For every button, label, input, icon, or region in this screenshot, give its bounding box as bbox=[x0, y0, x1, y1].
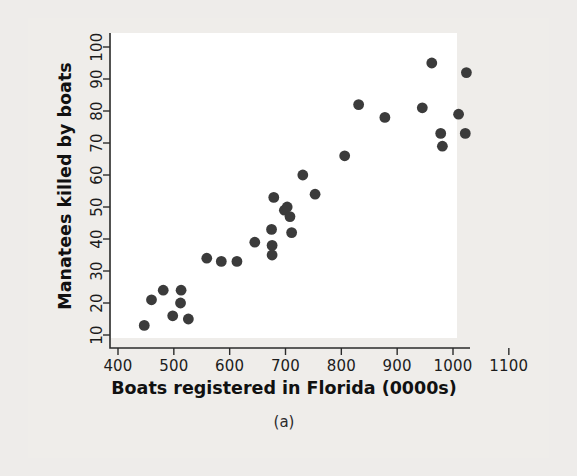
data-point bbox=[461, 67, 472, 78]
axis-lines bbox=[110, 33, 470, 348]
data-point bbox=[435, 128, 446, 139]
data-point bbox=[353, 99, 364, 110]
y-axis-tick-labels: 102030405060708090100 bbox=[88, 32, 106, 344]
x-axis-title: Boats registered in Florida (0000s) bbox=[111, 378, 457, 398]
data-point bbox=[339, 150, 350, 161]
figure-caption: (a) bbox=[274, 413, 295, 431]
y-tick-label: 50 bbox=[88, 197, 106, 217]
x-tick-label: 500 bbox=[159, 357, 188, 375]
data-point bbox=[216, 256, 227, 267]
data-point bbox=[267, 250, 278, 261]
y-tick-label: 80 bbox=[88, 101, 106, 121]
data-point bbox=[437, 141, 448, 152]
x-axis-tick-labels: 40050060070080090010001100 bbox=[103, 357, 528, 375]
data-point bbox=[460, 128, 471, 139]
y-tick-label: 70 bbox=[88, 133, 106, 153]
data-point bbox=[139, 320, 150, 331]
data-point bbox=[183, 314, 194, 325]
data-point bbox=[426, 58, 437, 69]
y-tick-label: 10 bbox=[88, 325, 106, 345]
figure-container: 40050060070080090010001100 1020304050607… bbox=[0, 0, 577, 476]
data-point bbox=[266, 224, 277, 235]
y-tick-label: 20 bbox=[88, 293, 106, 313]
data-point bbox=[379, 112, 390, 123]
x-axis-tick-marks bbox=[118, 348, 509, 355]
data-points-group bbox=[139, 58, 472, 331]
x-tick-label: 1100 bbox=[489, 357, 528, 375]
data-point bbox=[175, 298, 186, 309]
y-tick-label: 60 bbox=[88, 165, 106, 185]
y-axis-title: Manatees killed by boats bbox=[55, 62, 75, 309]
x-tick-label: 400 bbox=[103, 357, 132, 375]
data-point bbox=[232, 256, 243, 267]
data-point bbox=[285, 211, 296, 222]
x-tick-label: 600 bbox=[215, 357, 244, 375]
data-point bbox=[286, 227, 297, 238]
data-point bbox=[297, 170, 308, 181]
y-axis-tick-marks bbox=[103, 47, 110, 335]
x-tick-label: 1000 bbox=[434, 357, 473, 375]
data-point bbox=[268, 192, 279, 203]
x-tick-label: 900 bbox=[383, 357, 412, 375]
data-point bbox=[158, 285, 169, 296]
data-point bbox=[201, 253, 212, 264]
data-point bbox=[146, 294, 157, 305]
data-point bbox=[417, 102, 428, 113]
data-point bbox=[310, 189, 321, 200]
data-point bbox=[267, 240, 278, 251]
data-point bbox=[176, 285, 187, 296]
data-point bbox=[282, 202, 293, 213]
y-tick-label: 40 bbox=[88, 229, 106, 249]
scatter-chart: 40050060070080090010001100 1020304050607… bbox=[0, 0, 577, 476]
y-tick-label: 30 bbox=[88, 261, 106, 281]
data-point bbox=[167, 310, 178, 321]
y-tick-label: 90 bbox=[88, 69, 106, 89]
x-tick-label: 700 bbox=[271, 357, 300, 375]
x-tick-label: 800 bbox=[327, 357, 356, 375]
y-tick-label: 100 bbox=[88, 32, 106, 61]
data-point bbox=[453, 109, 464, 120]
data-point bbox=[249, 237, 260, 248]
